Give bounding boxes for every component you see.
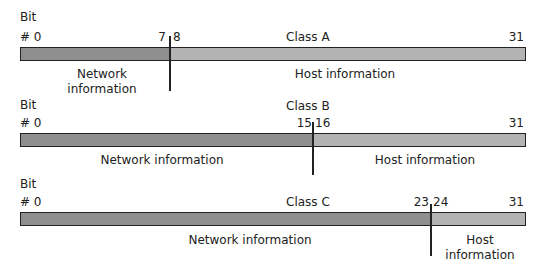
network-label-line2: information — [67, 82, 136, 96]
split-right-bit-label: 8 — [173, 30, 181, 44]
network-label: Network information — [96, 153, 227, 167]
host-segment — [431, 213, 525, 225]
start-bit-label: # 0 — [20, 116, 42, 130]
end-bit-label: 31 — [509, 116, 524, 130]
split-divider — [312, 122, 314, 175]
host-segment — [170, 48, 525, 60]
start-bit-label: # 0 — [20, 195, 42, 209]
host-label-line1: Host — [463, 233, 496, 247]
host-label: Host information — [291, 67, 399, 81]
split-divider — [169, 36, 171, 91]
start-bit-label: # 0 — [20, 30, 42, 44]
split-right-bit-label: 24 — [433, 195, 448, 209]
network-label: Network information — [184, 233, 315, 247]
class-label: Class B — [286, 99, 330, 113]
bit-label: Bit — [20, 177, 36, 191]
end-bit-label: 31 — [509, 30, 524, 44]
address-bar — [20, 212, 526, 226]
split-left-bit-label: 23 — [414, 195, 429, 209]
class-label: Class A — [286, 30, 330, 44]
class-label: Class C — [286, 195, 330, 209]
bit-label: Bit — [20, 10, 36, 24]
host-label: Host information — [371, 153, 479, 167]
split-divider — [430, 204, 432, 256]
split-left-bit-label: 15 — [297, 116, 312, 130]
split-right-bit-label: 16 — [315, 116, 330, 130]
network-label-line1: Network — [77, 67, 127, 81]
host-segment — [313, 134, 525, 146]
split-left-bit-label: 7 — [158, 30, 166, 44]
end-bit-label: 31 — [509, 195, 524, 209]
bit-label: Bit — [20, 98, 36, 112]
address-bar — [20, 47, 526, 61]
host-label-line2: information — [445, 248, 514, 262]
network-segment — [21, 134, 313, 146]
network-segment — [21, 213, 431, 225]
network-segment — [21, 48, 170, 60]
address-bar — [20, 133, 526, 147]
